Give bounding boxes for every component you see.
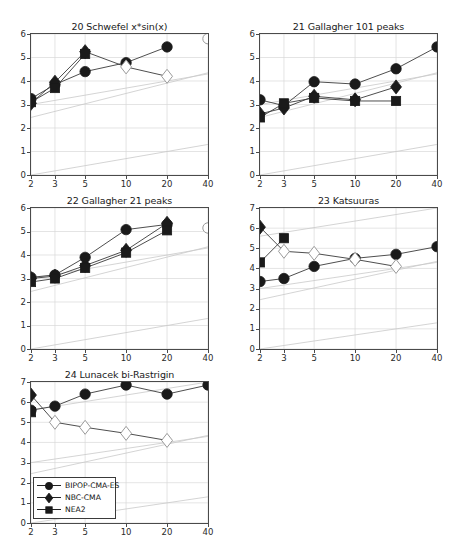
- x-axis-tick-label: 2: [19, 527, 43, 537]
- legend-label: BIPOP-CMA-ES: [65, 481, 119, 490]
- x-axis-tick-mark: [208, 524, 209, 527]
- y-axis-tick-mark: [27, 523, 30, 524]
- y-axis-tick-mark: [27, 402, 30, 403]
- legend-label: NEA2: [65, 505, 86, 514]
- x-axis-tick-mark: [126, 524, 127, 527]
- y-axis-tick-label: 2: [8, 477, 26, 487]
- y-axis-tick-label: 0: [8, 518, 26, 528]
- figure-canvas: 20 Schwefel x*sin(x)012345623510204021 G…: [0, 0, 458, 547]
- x-axis-tick-mark: [55, 524, 56, 527]
- x-axis-tick-mark: [167, 524, 168, 527]
- x-axis-tick-mark: [31, 524, 32, 527]
- x-axis-tick-label: 10: [114, 527, 138, 537]
- x-axis-tick-label: 40: [196, 527, 220, 537]
- legend-marker-square-icon: [37, 505, 61, 514]
- legend-item-diamond: NBC-CMA: [37, 493, 101, 502]
- chart-panel: 24 Lunacek bi-Rastrigin01234567235102040: [0, 0, 458, 547]
- y-axis-tick-label: 6: [8, 397, 26, 407]
- legend-item-circle: BIPOP-CMA-ES: [37, 481, 119, 490]
- y-axis-tick-mark: [27, 463, 30, 464]
- y-axis-tick-mark: [27, 382, 30, 383]
- y-axis-tick-mark: [27, 503, 30, 504]
- y-axis-tick-mark: [27, 483, 30, 484]
- x-axis-tick-mark: [85, 524, 86, 527]
- legend-label: NBC-CMA: [65, 493, 101, 502]
- x-axis-tick-label: 20: [155, 527, 179, 537]
- x-axis-tick-label: 3: [43, 527, 67, 537]
- legend-item-square: NEA2: [37, 505, 86, 514]
- y-axis-tick-mark: [27, 442, 30, 443]
- x-axis-tick-label: 5: [73, 527, 97, 537]
- legend-marker-diamond-icon: [37, 493, 61, 502]
- legend-marker-circle-icon: [37, 481, 61, 490]
- y-axis-tick-label: 7: [8, 377, 26, 387]
- y-axis-tick-label: 3: [8, 457, 26, 467]
- y-axis-tick-label: 4: [8, 437, 26, 447]
- y-axis-tick-label: 5: [8, 417, 26, 427]
- y-axis-tick-label: 1: [8, 497, 26, 507]
- panel-title: 24 Lunacek bi-Rastrigin: [30, 369, 209, 380]
- y-axis-tick-mark: [27, 422, 30, 423]
